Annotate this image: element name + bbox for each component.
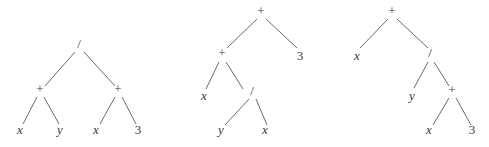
operator-node: + [114, 81, 121, 96]
tree-edge [45, 52, 75, 86]
tree-edge [360, 19, 388, 48]
variable-node: y [407, 88, 415, 103]
variable-node: y [216, 122, 224, 137]
expression-tree-1: /++xyx3 [16, 36, 141, 137]
operator-node: + [257, 3, 264, 18]
variable-node: x [92, 122, 99, 137]
variable-node: x [261, 122, 268, 137]
variable-node: y [55, 122, 63, 137]
operator-node: / [77, 36, 81, 51]
tree-edge [206, 62, 219, 89]
tree-edge [434, 62, 449, 86]
constant-node: 3 [297, 48, 304, 63]
constant-node: 3 [135, 122, 142, 137]
tree-edge [23, 97, 37, 124]
tree-edge [456, 98, 471, 125]
variable-node: x [353, 48, 360, 63]
operator-node: / [428, 45, 432, 60]
tree-edge [225, 99, 249, 125]
operator-node: + [448, 82, 455, 97]
expression-trees-diagram: /++xyx3 ++3x/yx +x/y+x3 [0, 0, 489, 147]
operator-node: + [218, 45, 225, 60]
operator-node: / [250, 83, 254, 98]
variable-node: x [200, 88, 207, 103]
operator-node: + [36, 81, 43, 96]
tree-edge [122, 97, 136, 124]
expression-tree-3: +x/y+x3 [353, 3, 475, 137]
tree-edge [100, 97, 115, 124]
tree-edge [266, 19, 297, 48]
expression-tree-2: ++3x/yx [200, 3, 303, 137]
tree-edge [226, 62, 243, 89]
operator-node: + [388, 3, 395, 18]
tree-edge [44, 97, 59, 124]
variable-node: x [425, 122, 432, 137]
variable-node: x [16, 122, 23, 137]
tree-edge [227, 19, 257, 48]
tree-edge [414, 62, 428, 88]
tree-edge [397, 19, 428, 48]
tree-edge [84, 52, 115, 86]
constant-node: 3 [469, 122, 476, 137]
tree-edge [433, 98, 449, 125]
